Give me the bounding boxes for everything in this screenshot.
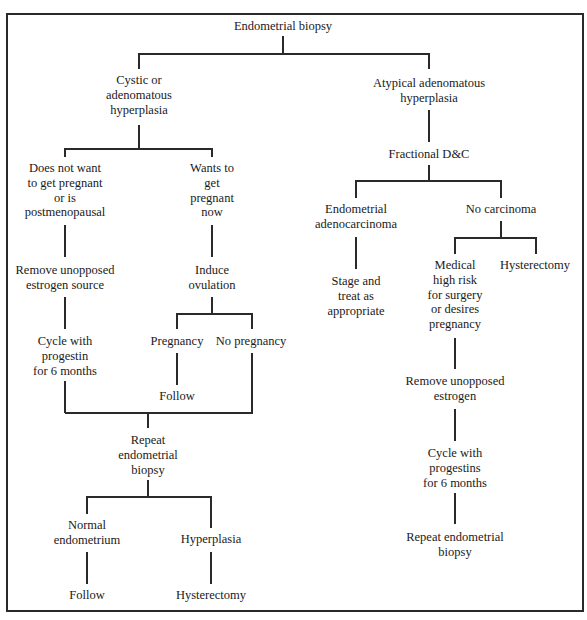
node-does-not-want-pregnancy: Does not want to get pregnant or is post… [25,161,106,220]
connector [64,148,66,157]
connector [211,148,213,157]
node-wants-pregnancy: Wants to get pregnant now [190,161,234,220]
node-repeat-biopsy-right: Repeat endometrial biopsy [406,530,504,560]
connector [251,353,253,413]
connector [454,493,456,524]
node-hysterectomy-right: Hysterectomy [500,258,570,273]
node-root: Endometrial biopsy [234,19,332,34]
connector [65,412,253,414]
connector [282,36,284,53]
node-cycle-progestin-left: Cycle with progestin for 6 months [33,334,97,378]
connector [454,409,456,441]
connector [454,237,456,254]
node-induce-ovulation: Induce ovulation [188,263,235,293]
connector [211,225,213,257]
node-no-carcinoma: No carcinoma [466,202,536,217]
connector [65,148,213,150]
connector [87,496,212,498]
connector [210,496,212,528]
node-follow-normal: Follow [69,588,104,603]
node-cystic-hyperplasia: Cystic or adenomatous hyperplasia [106,73,172,117]
connector [535,237,537,254]
connector [64,225,66,257]
connector [428,53,430,69]
connector [147,412,149,428]
connector [86,496,88,514]
node-remove-estrogen-source: Remove unopposed estrogen source [16,263,115,293]
node-follow-pregnancy: Follow [159,389,194,404]
connector [211,297,213,313]
connector [86,552,88,584]
node-medical-high-risk: Medical high risk for surgery or desires… [428,258,483,332]
node-fractional-dc: Fractional D&C [389,147,470,162]
node-endometrial-adenocarcinoma: Endometrial adenocarcinoma [315,202,397,232]
connector [356,180,502,182]
node-pregnancy: Pregnancy [151,334,204,349]
connector [251,313,253,329]
connector [355,237,357,269]
connector [428,110,430,142]
node-remove-estrogen-right: Remove unopposed estrogen [406,374,505,404]
node-stage-and-treat: Stage and treat as appropriate [328,274,385,318]
connector [428,165,430,180]
node-cycle-progestins-right: Cycle with progestins for 6 months [423,446,487,490]
connector [138,53,140,69]
node-repeat-biopsy-left: Repeat endometrial biopsy [118,433,178,477]
connector [210,552,212,584]
connector [355,180,357,198]
node-normal-endometrium: Normal endometrium [54,518,121,548]
connector [454,338,456,369]
connector [176,353,178,385]
connector [177,313,252,315]
connector [64,381,66,413]
node-no-pregnancy: No pregnancy [216,334,286,349]
connector [138,125,140,148]
node-hyperplasia: Hyperplasia [181,532,241,547]
connector [500,180,502,198]
connector [176,313,178,329]
connector [455,237,536,239]
connector [64,297,66,329]
connector [500,221,502,237]
connector [147,480,149,496]
connector [139,53,429,55]
node-hysterectomy-left: Hysterectomy [176,588,246,603]
node-atypical-hyperplasia: Atypical adenomatous hyperplasia [373,76,485,106]
